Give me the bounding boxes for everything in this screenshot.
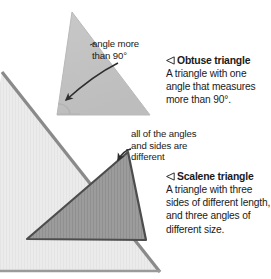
entry-heading-text: Obtuse triangle [177,55,250,66]
entry-body: A triangle with one angle that measures … [166,67,271,107]
left-pointing-triangle-icon [166,55,175,64]
callout-line: different [131,151,197,163]
figure-page: angle more than 90° all of the angles an… [0,0,271,279]
entry-body: A triangle with three sides of different… [166,183,271,236]
left-pointing-triangle-icon [166,171,175,180]
entry-heading: Scalene triangle [166,170,271,183]
entry-body-line: different size. [166,223,271,236]
obtuse-angle-callout: angle more than 90° [92,38,139,61]
entry-body-line: A triangle with one [166,67,271,80]
scalene-triangle-entry: Scalene triangle A triangle with three s… [166,170,271,236]
obtuse-triangle [57,12,150,115]
entry-body-line: more than 90°. [166,93,271,106]
obtuse-triangle-entry: Obtuse triangle A triangle with one angl… [166,54,271,107]
entry-body-line: angle that measures [166,80,271,93]
callout-line: than 90° [92,50,139,62]
callout-line: all of the angles [131,128,197,140]
callout-line: angle more [92,38,139,50]
scalene-sides-callout: all of the angles and sides are differen… [131,128,197,163]
entry-body-line: sides of different length, [166,196,271,209]
entry-heading: Obtuse triangle [166,54,271,67]
callout-line: and sides are [131,140,197,152]
entry-body-line: A triangle with three [166,183,271,196]
entry-body-line: and three angles of [166,209,271,222]
entry-heading-text: Scalene triangle [177,171,254,182]
